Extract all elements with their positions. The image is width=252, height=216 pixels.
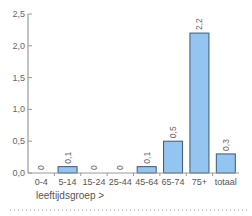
value-label: 0,3 xyxy=(221,139,231,151)
y-tick-label: 1,5 xyxy=(12,73,25,83)
value-label: 0,1 xyxy=(142,152,152,164)
x-tick-label: 25-44 xyxy=(109,177,132,187)
value-label: 0,1 xyxy=(63,152,73,164)
y-tick-label: 2,0 xyxy=(12,41,25,51)
value-label: 0 xyxy=(115,165,125,170)
x-tick-label: 15-24 xyxy=(82,177,105,187)
y-tick-label: 2,5 xyxy=(12,9,25,19)
bar-5-14 xyxy=(58,167,77,173)
x-tick-label: 5-14 xyxy=(59,177,77,187)
x-axis: 0-45-1415-2425-4445-6465-7475+totaal xyxy=(28,173,239,187)
x-tick-label: 75+ xyxy=(192,177,207,187)
y-tick-label: 0,0 xyxy=(12,168,25,178)
value-label: 2,2 xyxy=(194,18,204,30)
x-tick-label: 65-74 xyxy=(162,177,185,187)
x-tick-label: 0-4 xyxy=(35,177,48,187)
y-tick-label: 1,0 xyxy=(12,104,25,114)
bar-65-74 xyxy=(164,141,183,173)
bar-chart: 0,00,51,01,52,02,5 00,1000,10,52,20,3 0-… xyxy=(0,0,252,216)
value-label: 0 xyxy=(89,165,99,170)
y-axis: 0,00,51,01,52,02,5 xyxy=(12,9,32,178)
value-label: 0,5 xyxy=(168,126,178,138)
y-tick-label: 0,5 xyxy=(12,136,25,146)
bars: 00,1000,10,52,20,3 xyxy=(36,18,235,173)
bar-totaal xyxy=(216,154,235,173)
x-tick-label: 45-64 xyxy=(135,177,158,187)
bar-75+ xyxy=(190,33,209,173)
value-label: 0 xyxy=(36,165,46,170)
bar-45-64 xyxy=(137,167,156,173)
x-axis-label: leeftijdsgroep > xyxy=(36,190,104,201)
x-tick-label: totaal xyxy=(215,177,237,187)
